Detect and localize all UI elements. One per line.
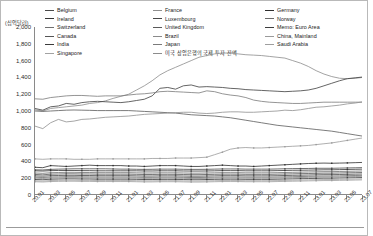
- series-marker: [284, 164, 285, 165]
- series-marker: [128, 181, 129, 182]
- series-marker: [300, 180, 301, 181]
- series-marker: [50, 170, 51, 171]
- series-marker: [269, 170, 270, 171]
- series-marker: [175, 175, 176, 176]
- series-marker: [175, 157, 176, 158]
- series-marker: [35, 172, 36, 173]
- y-tick-label: 0: [1, 192, 31, 198]
- series-marker: [206, 179, 207, 180]
- series-marker: [300, 171, 301, 172]
- series-marker: [237, 179, 238, 180]
- series-marker: [284, 178, 285, 179]
- series-marker: [66, 175, 67, 176]
- series-line: [35, 110, 362, 136]
- series-marker: [347, 177, 348, 178]
- y-tick-label: 400: [1, 158, 31, 164]
- series-marker: [253, 174, 254, 175]
- figure-bottom-rule: [6, 227, 364, 228]
- series-marker: [128, 158, 129, 159]
- series-marker: [269, 168, 270, 169]
- series-marker: [222, 164, 223, 165]
- series-marker: [66, 172, 67, 173]
- series-marker: [35, 175, 36, 176]
- series-marker: [347, 162, 348, 163]
- series-marker: [206, 181, 207, 182]
- legend-line-icon: [45, 10, 54, 11]
- series-marker: [97, 173, 98, 174]
- series-marker: [35, 167, 36, 168]
- series-marker: [190, 181, 191, 182]
- series-marker: [190, 172, 191, 173]
- series-marker: [112, 170, 113, 171]
- series-marker: [144, 169, 145, 170]
- series-marker: [66, 178, 67, 179]
- series-marker: [190, 174, 191, 175]
- y-tick-label: 1,600: [1, 58, 31, 64]
- series-line: [35, 91, 362, 104]
- y-tick-label: 800: [1, 125, 31, 131]
- series-marker: [315, 163, 316, 164]
- series-marker: [81, 159, 82, 160]
- series-marker: [300, 168, 301, 169]
- series-line: [35, 162, 362, 167]
- series-marker: [347, 169, 348, 170]
- series-marker: [300, 145, 301, 146]
- series-marker: [144, 181, 145, 182]
- series-marker: [300, 163, 301, 164]
- y-tick-label: 2,000: [1, 24, 31, 30]
- legend-line-icon: [265, 18, 274, 19]
- series-marker: [284, 146, 285, 147]
- series-marker: [144, 166, 145, 167]
- series-marker: [331, 171, 332, 172]
- series-marker: [112, 165, 113, 166]
- series-marker: [128, 172, 129, 173]
- series-marker: [97, 172, 98, 173]
- series-marker: [222, 175, 223, 176]
- legend-item: Luxembourg: [153, 15, 265, 24]
- series-marker: [347, 140, 348, 141]
- series-marker: [190, 175, 191, 176]
- series-marker: [222, 172, 223, 173]
- series-marker: [237, 173, 238, 174]
- series-marker: [222, 173, 223, 174]
- series-marker: [50, 165, 51, 166]
- series-marker: [128, 179, 129, 180]
- series-marker: [269, 172, 270, 173]
- series-marker: [159, 168, 160, 169]
- series-marker: [81, 172, 82, 173]
- series-marker: [97, 175, 98, 176]
- plot-area: [34, 27, 362, 195]
- series-marker: [97, 179, 98, 180]
- series-marker: [206, 157, 207, 158]
- series-marker: [144, 170, 145, 171]
- series-marker: [206, 169, 207, 170]
- series-marker: [315, 168, 316, 169]
- series-marker: [315, 180, 316, 181]
- series-marker: [206, 174, 207, 175]
- series-marker: [159, 175, 160, 176]
- series-marker: [315, 174, 316, 175]
- series-marker: [253, 166, 254, 167]
- series-marker: [159, 170, 160, 171]
- series-marker: [347, 174, 348, 175]
- series-marker: [66, 181, 67, 182]
- series-marker: [159, 174, 160, 175]
- series-marker: [315, 178, 316, 179]
- legend-item: Germany: [265, 6, 365, 15]
- series-marker: [190, 166, 191, 167]
- legend-label: Ireland: [57, 15, 74, 24]
- series-marker: [300, 174, 301, 175]
- series-marker: [35, 158, 36, 159]
- series-marker: [300, 170, 301, 171]
- series-marker: [97, 168, 98, 169]
- series-marker: [206, 170, 207, 171]
- series-marker: [175, 179, 176, 180]
- series-marker: [128, 170, 129, 171]
- series-marker: [347, 172, 348, 173]
- series-marker: [253, 147, 254, 148]
- series-marker: [35, 178, 36, 179]
- y-tick-label: 1,200: [1, 91, 31, 97]
- series-marker: [190, 170, 191, 171]
- series-marker: [284, 170, 285, 171]
